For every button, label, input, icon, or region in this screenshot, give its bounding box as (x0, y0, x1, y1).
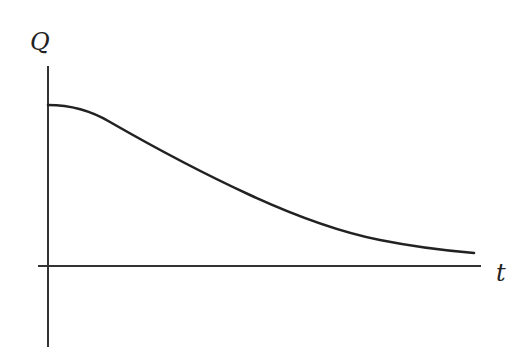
q-curve (48, 105, 474, 253)
x-axis-label: t (496, 259, 506, 287)
y-axis-label: Q (30, 28, 50, 56)
graph: Q t (0, 0, 532, 358)
